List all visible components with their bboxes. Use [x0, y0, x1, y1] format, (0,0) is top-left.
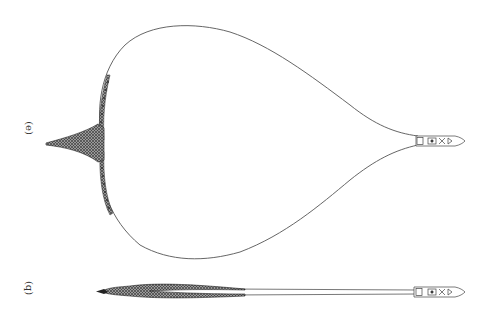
net-bag-top	[46, 124, 104, 162]
wide-loop-net	[46, 26, 418, 259]
narrow-towed-net	[96, 284, 418, 298]
boat-top	[416, 136, 465, 146]
diagram-drawing	[0, 0, 486, 315]
net-diagram-figure: (e) (q)	[0, 0, 486, 315]
net-bag-bottom	[102, 284, 245, 298]
boat-bottom	[414, 287, 465, 297]
